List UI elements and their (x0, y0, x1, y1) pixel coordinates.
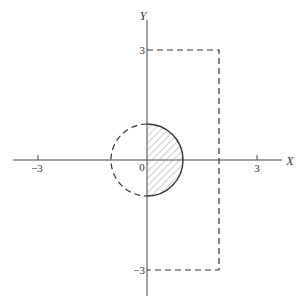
diagram-canvas: Y X 0 −3 3 3 −3 (0, 0, 304, 305)
x-tick-label-3: 3 (254, 162, 260, 174)
x-tick-label-neg3: −3 (31, 162, 43, 174)
y-tick-label-3: 3 (140, 44, 146, 56)
x-axis-label: X (285, 154, 294, 168)
origin-label: 0 (139, 161, 145, 173)
y-axis-label: Y (140, 9, 148, 23)
y-tick-label-neg3: −3 (133, 264, 145, 276)
